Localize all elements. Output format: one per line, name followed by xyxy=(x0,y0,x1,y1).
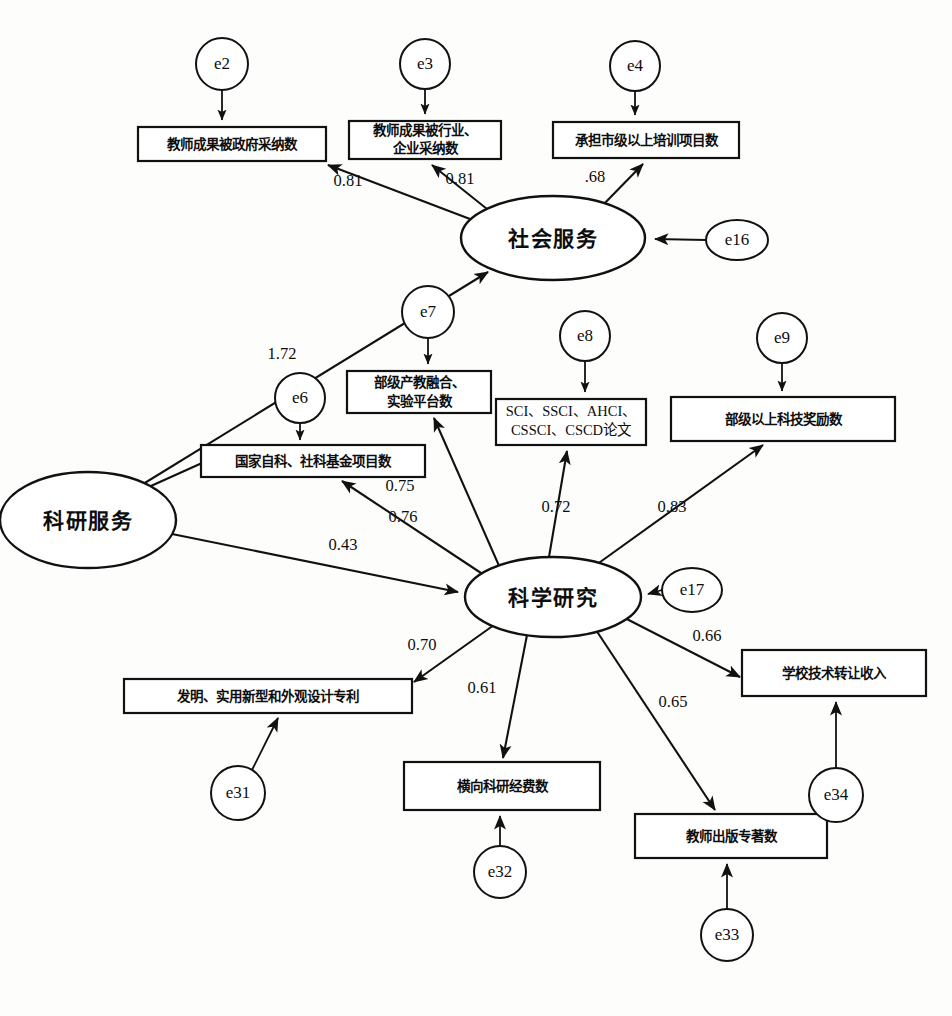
latent-label-social-service: 社会服务 xyxy=(507,227,598,251)
coef-research-tech-transfer: 0.66 xyxy=(693,626,722,645)
coef-research-national-funds: 0.76 xyxy=(389,507,418,526)
error-node-e8[interactable]: e8 xyxy=(560,311,610,361)
error-label-e9: e9 xyxy=(774,328,790,347)
observed-label-city-training: 承担市级以上培训项目数 xyxy=(575,132,719,148)
coef-research-awards: 0.83 xyxy=(658,497,687,516)
error-node-e6[interactable]: e6 xyxy=(275,373,325,423)
coef-social-gov-adopt: 0.81 xyxy=(334,171,363,190)
coef-social-city-training: .68 xyxy=(585,167,606,186)
coef-research-horizontal: 0.61 xyxy=(468,678,497,697)
observed-node-patents[interactable]: 发明、实用新型和外观设计专利 xyxy=(124,679,412,713)
observed-node-national-funds[interactable]: 国家自科、社科基金项目数 xyxy=(201,445,425,477)
observed-label-industry-adopt-line2: 企业采纳数 xyxy=(392,140,459,156)
path-arrow-research-to-platform xyxy=(434,418,500,568)
error-arrow-e17 xyxy=(648,590,662,594)
latent-node-scientific-research[interactable]: 科学研究 xyxy=(465,557,641,637)
diagram-canvas: 0.81 0.81 .68 1.72 0.43 0.75 0.76 0.72 0… xyxy=(0,0,952,1016)
error-node-e9[interactable]: e9 xyxy=(757,313,807,363)
error-label-e16: e16 xyxy=(725,230,750,249)
observed-label-gov-adopt: 教师成果被政府采纳数 xyxy=(167,136,298,152)
error-node-e2[interactable]: e2 xyxy=(196,38,248,90)
coef-research-service-social: 1.72 xyxy=(268,344,297,363)
error-node-e32[interactable]: e32 xyxy=(474,846,526,898)
error-label-e32: e32 xyxy=(488,862,513,881)
observed-label-horizontal-funding: 横向科研经费数 xyxy=(457,778,549,794)
observed-label-patents: 发明、实用新型和外观设计专利 xyxy=(176,688,359,704)
latent-node-research-service[interactable]: 科研服务 xyxy=(0,472,176,568)
observed-label-platform-line2: 实验平台数 xyxy=(387,393,453,409)
path-arrow-research-service-to-scientific-research xyxy=(172,534,458,592)
latent-label-research-service: 科研服务 xyxy=(43,509,133,533)
coef-research-papers: 0.72 xyxy=(542,497,571,516)
coef-research-service-research: 0.43 xyxy=(329,535,358,554)
observed-label-tech-transfer: 学校技术转让收入 xyxy=(782,665,887,681)
observed-label-industry-adopt-line1: 教师成果被行业、 xyxy=(373,122,477,138)
error-label-e7: e7 xyxy=(420,302,437,321)
observed-label-papers-line1: SCI、SSCI、AHCI、 xyxy=(506,403,637,419)
observed-node-city-training[interactable]: 承担市级以上培训项目数 xyxy=(553,122,739,158)
observed-label-platform-line1: 部级产教融合、 xyxy=(374,374,465,390)
latent-label-scientific-research: 科学研究 xyxy=(508,586,598,610)
observed-label-published-books: 教师出版专著数 xyxy=(686,828,778,844)
observed-node-tech-transfer-income[interactable]: 学校技术转让收入 xyxy=(742,650,926,696)
observed-node-horizontal-funding[interactable]: 横向科研经费数 xyxy=(404,762,600,810)
observed-node-sci-tech-awards[interactable]: 部级以上科技奖励数 xyxy=(671,397,895,441)
error-arrow-e16 xyxy=(655,239,706,240)
error-label-e8: e8 xyxy=(577,326,593,345)
error-label-e3: e3 xyxy=(417,54,433,73)
error-node-e3[interactable]: e3 xyxy=(400,39,450,89)
observed-node-gov-adopt[interactable]: 教师成果被政府采纳数 xyxy=(138,127,326,161)
error-node-e7[interactable]: e7 xyxy=(402,286,454,338)
error-node-e33[interactable]: e33 xyxy=(701,909,753,961)
observed-label-awards: 部级以上科技奖励数 xyxy=(725,411,843,427)
error-arrow-e31 xyxy=(252,718,278,770)
error-label-e6: e6 xyxy=(292,388,308,407)
path-arrow-social-to-city-training xyxy=(600,164,643,208)
coef-research-books: 0.65 xyxy=(659,692,688,711)
error-node-e16[interactable]: e16 xyxy=(706,220,768,260)
error-label-e33: e33 xyxy=(715,925,740,944)
latent-node-social-service[interactable]: 社会服务 xyxy=(461,196,645,280)
coef-research-patents: 0.70 xyxy=(408,635,437,654)
error-label-e17: e17 xyxy=(680,580,705,599)
observed-node-journal-papers[interactable]: SCI、SSCI、AHCI、 CSSCI、CSCD论文 xyxy=(496,399,646,445)
error-node-e31[interactable]: e31 xyxy=(211,766,265,820)
error-label-e2: e2 xyxy=(214,54,230,73)
observed-node-industry-adopt[interactable]: 教师成果被行业、 企业采纳数 xyxy=(349,121,501,159)
observed-node-published-books[interactable]: 教师出版专著数 xyxy=(635,814,827,858)
path-arrow-research-to-national-funds xyxy=(342,481,481,573)
error-node-e34[interactable]: e34 xyxy=(809,768,863,822)
sem-path-diagram: 0.81 0.81 .68 1.72 0.43 0.75 0.76 0.72 0… xyxy=(0,0,952,1016)
observed-node-industry-edu-platform[interactable]: 部级产教融合、 实验平台数 xyxy=(347,371,491,413)
error-label-e4: e4 xyxy=(627,56,644,75)
error-label-e34: e34 xyxy=(824,785,849,804)
observed-label-national-funds: 国家自科、社科基金项目数 xyxy=(235,453,392,469)
path-arrow-research-to-tech-transfer xyxy=(617,614,740,677)
error-node-e4[interactable]: e4 xyxy=(610,41,660,91)
error-node-e17[interactable]: e17 xyxy=(662,568,722,612)
path-arrow-research-to-horizontal-funding xyxy=(503,635,527,758)
coef-social-industry-adopt: 0.81 xyxy=(446,169,475,188)
error-label-e31: e31 xyxy=(226,783,251,802)
observed-label-papers-line2: CSSCI、CSCD论文 xyxy=(511,422,632,438)
coef-research-platform: 0.75 xyxy=(386,476,415,495)
